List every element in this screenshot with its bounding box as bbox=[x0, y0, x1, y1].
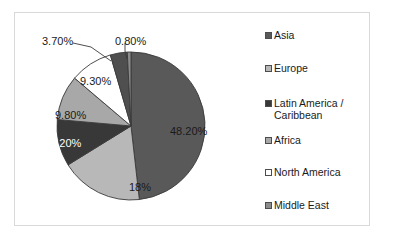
legend-swatch-icon bbox=[265, 100, 272, 107]
legend-item-label: North America bbox=[274, 166, 341, 178]
chart-legend: AsiaEuropeLatin America / CaribbeanAfric… bbox=[265, 29, 369, 219]
legend-swatch-icon bbox=[265, 65, 272, 72]
legend-item[interactable]: Africa bbox=[265, 134, 301, 146]
legend-item[interactable]: Asia bbox=[265, 29, 294, 41]
legend-item-label: Africa bbox=[274, 134, 301, 146]
pie-slice-label: 48.20% bbox=[170, 125, 207, 137]
legend-item-label: Latin America / Caribbean bbox=[274, 97, 343, 121]
legend-swatch-icon bbox=[265, 169, 272, 176]
chart-frame: 3.70%0.80%9.30%9.80%10.20%18%48.20% Asia… bbox=[14, 12, 370, 226]
legend-item[interactable]: Europe bbox=[265, 62, 308, 74]
legend-item[interactable]: Latin America / Caribbean bbox=[265, 97, 343, 121]
legend-item-label: Asia bbox=[274, 29, 294, 41]
legend-swatch-icon bbox=[265, 202, 272, 209]
pie-slice-label: 10.20% bbox=[44, 137, 81, 149]
legend-swatch-icon bbox=[265, 137, 272, 144]
pie-chart-area: 3.70%0.80%9.30%9.80%10.20%18%48.20% bbox=[15, 13, 255, 227]
pie-slice-label: 9.30% bbox=[80, 75, 111, 87]
legend-item[interactable]: Middle East bbox=[265, 199, 329, 211]
pie-slice-label: 0.80% bbox=[115, 35, 146, 47]
legend-item-label: Middle East bbox=[274, 199, 329, 211]
legend-item[interactable]: North America bbox=[265, 166, 341, 178]
pie-slice-label: 9.80% bbox=[55, 109, 86, 121]
pie-slice-label: 3.70% bbox=[42, 35, 73, 47]
legend-swatch-icon bbox=[265, 32, 272, 39]
pie-slice-label: 18% bbox=[129, 181, 151, 193]
legend-item-label: Europe bbox=[274, 62, 308, 74]
